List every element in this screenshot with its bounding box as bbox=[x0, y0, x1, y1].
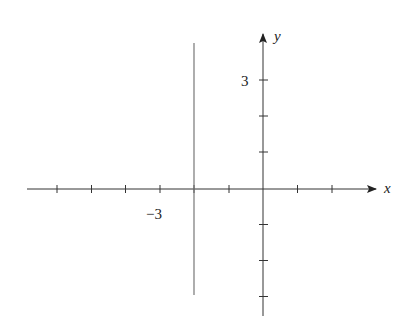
y-axis-label: y bbox=[272, 28, 281, 44]
y-tick-label-3: 3 bbox=[241, 73, 249, 89]
x-axis-label: x bbox=[383, 180, 391, 196]
coordinate-plane: 3 −3 y x bbox=[0, 0, 399, 318]
x-tick-label-neg3: −3 bbox=[146, 206, 162, 222]
